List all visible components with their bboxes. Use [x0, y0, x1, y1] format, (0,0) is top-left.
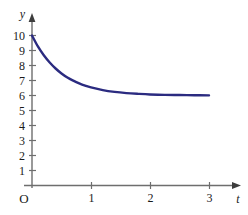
x-tick-label-3: 3	[207, 191, 213, 205]
exponential-decay-plot: 1 2 3 4 5 6 7 8 9 10 1 2 3 y t O	[0, 0, 248, 215]
y-axis-label: y	[19, 7, 26, 21]
axes-group	[24, 13, 241, 189]
y-tick-label-7: 7	[19, 74, 25, 88]
chart-figure: 1 2 3 4 5 6 7 8 9 10 1 2 3 y t O	[0, 0, 248, 215]
y-tick-label-9: 9	[19, 44, 25, 58]
y-tick-label-8: 8	[19, 59, 25, 73]
x-axis-tick-labels: 1 2 3	[89, 191, 213, 205]
x-tick-label-1: 1	[89, 191, 95, 205]
y-tick-label-1: 1	[19, 164, 25, 178]
y-tick-label-3: 3	[19, 134, 25, 148]
y-tick-label-4: 4	[19, 119, 25, 133]
data-curve	[32, 36, 209, 96]
y-axis-tick-labels: 1 2 3 4 5 6 7 8 9 10	[13, 29, 25, 178]
x-axis-arrow-icon	[232, 182, 241, 189]
x-tick-label-2: 2	[148, 191, 154, 205]
y-tick-label-2: 2	[19, 149, 25, 163]
y-tick-label-6: 6	[19, 89, 25, 103]
y-tick-label-10: 10	[13, 29, 25, 43]
y-axis-arrow-icon	[29, 13, 36, 22]
y-tick-label-5: 5	[19, 104, 25, 118]
x-axis-label: t	[236, 192, 240, 206]
origin-label: O	[19, 191, 28, 206]
